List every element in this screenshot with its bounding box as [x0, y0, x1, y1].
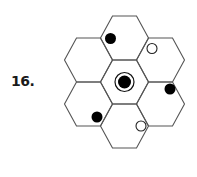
hexagon-cell-lower-left — [65, 82, 113, 126]
hexagon-cell-upper-right — [137, 38, 185, 82]
open-dot-icon — [136, 121, 146, 131]
center-dot-icon — [118, 76, 131, 89]
hexagon-cell-upper-left — [65, 38, 113, 82]
filled-dot-icon — [92, 112, 103, 123]
hexagon-cell-lower-right — [137, 82, 185, 126]
hexagon-puzzle-diagram — [0, 0, 197, 177]
open-dot-icon — [147, 44, 157, 54]
filled-dot-icon — [165, 84, 176, 95]
filled-dot-icon — [105, 33, 116, 44]
